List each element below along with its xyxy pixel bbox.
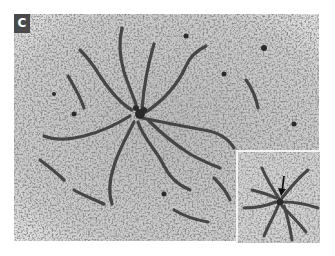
micrograph-inset xyxy=(236,150,320,243)
inset-image xyxy=(238,152,320,243)
panel-label: C xyxy=(14,14,30,33)
